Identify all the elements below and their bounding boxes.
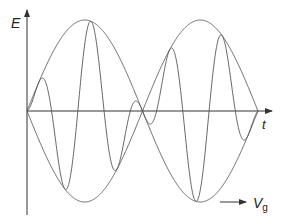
y-axis-label: E (11, 15, 21, 31)
group-velocity-label: Vg (253, 195, 268, 213)
x-axis-label: t (262, 117, 267, 132)
upper-envelope-curve (27, 20, 258, 111)
lower-envelope-curve (27, 111, 258, 202)
wave-packet-figure: E t Vg (0, 0, 289, 218)
